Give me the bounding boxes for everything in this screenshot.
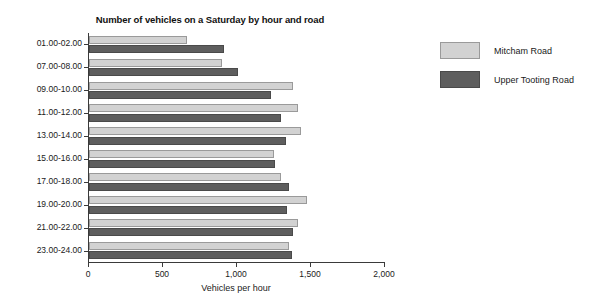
bar-upper-tooting-road: [89, 114, 281, 122]
x-axis-tick: [236, 262, 237, 267]
bar-mitcham-road: [89, 104, 298, 112]
bar-mitcham-road: [89, 219, 298, 227]
x-axis-tick: [88, 262, 89, 267]
y-axis-category-label: 13.00-14.00: [4, 130, 82, 140]
legend-label: Mitcham Road: [494, 46, 552, 56]
y-axis-tick: [84, 205, 88, 206]
bar-mitcham-road: [89, 36, 187, 44]
bar-mitcham-road: [89, 150, 274, 158]
bar-upper-tooting-road: [89, 68, 238, 76]
y-axis-tick: [84, 136, 88, 137]
legend-item-upper-tooting-road: Upper Tooting Road: [440, 71, 574, 88]
legend-item-mitcham-road: Mitcham Road: [440, 42, 574, 59]
y-axis-tick: [84, 251, 88, 252]
plot-area: 05001,0001,5002,00001.00-02.0007.00-08.0…: [88, 33, 384, 262]
x-axis-tick-label: 1,000: [225, 269, 246, 279]
y-axis-tick: [84, 90, 88, 91]
y-axis-category-label: 21.00-22.00: [4, 222, 82, 232]
y-axis-tick: [84, 182, 88, 183]
y-axis-tick: [84, 228, 88, 229]
legend-label: Upper Tooting Road: [494, 75, 574, 85]
y-axis-tick: [84, 67, 88, 68]
x-axis-tick-label: 2,000: [373, 269, 394, 279]
x-axis-title: Vehicles per hour: [88, 283, 384, 293]
y-axis-category-label: 15.00-16.00: [4, 153, 82, 163]
bar-upper-tooting-road: [89, 183, 289, 191]
x-axis-tick-label: 500: [155, 269, 169, 279]
bar-upper-tooting-road: [89, 137, 286, 145]
y-axis-category-label: 07.00-08.00: [4, 61, 82, 71]
bar-upper-tooting-road: [89, 206, 287, 214]
y-axis-tick: [84, 159, 88, 160]
y-axis-tick: [84, 113, 88, 114]
y-axis-category-label: 19.00-20.00: [4, 199, 82, 209]
bar-upper-tooting-road: [89, 228, 293, 236]
bar-mitcham-road: [89, 242, 289, 250]
x-axis-tick-label: 0: [86, 269, 91, 279]
bar-upper-tooting-road: [89, 251, 292, 259]
bar-upper-tooting-road: [89, 45, 224, 53]
bar-mitcham-road: [89, 196, 307, 204]
legend-swatch-icon: [440, 42, 480, 59]
x-axis-tick: [310, 262, 311, 267]
y-axis-category-label: 01.00-02.00: [4, 38, 82, 48]
bar-mitcham-road: [89, 173, 281, 181]
y-axis-tick: [84, 44, 88, 45]
bar-upper-tooting-road: [89, 160, 275, 168]
x-axis-tick-label: 1,500: [299, 269, 320, 279]
y-axis-category-label: 11.00-12.00: [4, 107, 82, 117]
legend-swatch-icon: [440, 71, 480, 88]
bar-mitcham-road: [89, 127, 301, 135]
bar-mitcham-road: [89, 59, 222, 67]
y-axis-category-label: 17.00-18.00: [4, 176, 82, 186]
x-axis-tick: [384, 262, 385, 267]
bar-upper-tooting-road: [89, 91, 271, 99]
vehicles-bar-chart: Number of vehicles on a Saturday by hour…: [0, 0, 591, 307]
y-axis-category-label: 23.00-24.00: [4, 245, 82, 255]
x-axis-tick: [162, 262, 163, 267]
chart-legend: Mitcham Road Upper Tooting Road: [440, 42, 574, 100]
y-axis-category-label: 09.00-10.00: [4, 84, 82, 94]
chart-title: Number of vehicles on a Saturday by hour…: [0, 14, 420, 25]
bar-mitcham-road: [89, 82, 293, 90]
